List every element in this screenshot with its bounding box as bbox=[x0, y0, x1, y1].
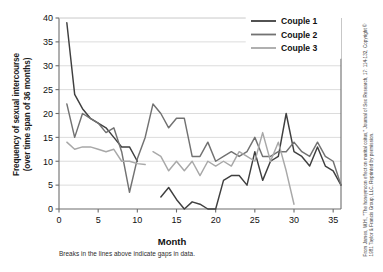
y-axis-title-line2: (over time span of 36 months) bbox=[22, 15, 33, 215]
y-tick-label-20: 20 bbox=[43, 109, 53, 119]
x-tick-label-35: 35 bbox=[328, 215, 338, 225]
legend-label-couple-2: Couple 2 bbox=[281, 30, 318, 40]
x-axis-title: Month bbox=[0, 236, 344, 247]
figure-credit-line1: From James, W.H., "The honeymoon effect … bbox=[363, 76, 368, 256]
y-tick-label-30: 30 bbox=[43, 61, 53, 71]
x-tick-label-25: 25 bbox=[250, 215, 260, 225]
legend-label-couple-3: Couple 3 bbox=[281, 43, 318, 53]
y-tick-label-10: 10 bbox=[43, 157, 53, 167]
x-tick-label-20: 20 bbox=[211, 215, 221, 225]
y-axis-title: Frequency of sexual intercourse (over ti… bbox=[12, 15, 33, 215]
x-tick-label-30: 30 bbox=[289, 215, 299, 225]
y-tick-label-40: 40 bbox=[43, 13, 53, 23]
line-chart: 051015202530354005101520253035Couple 1Co… bbox=[0, 0, 383, 272]
x-tick-label-0: 0 bbox=[56, 215, 61, 225]
figure-caption: Breaks in the lines above indicate gaps … bbox=[59, 250, 195, 257]
y-tick-label-25: 25 bbox=[43, 85, 53, 95]
y-tick-label-0: 0 bbox=[48, 204, 53, 214]
y-tick-label-15: 15 bbox=[43, 133, 53, 143]
y-tick-label-5: 5 bbox=[48, 180, 53, 190]
y-axis-title-line1: Frequency of sexual intercourse bbox=[12, 15, 23, 215]
x-tick-label-5: 5 bbox=[96, 215, 101, 225]
figure-credit: From James, W.H., "The honeymoon effect … bbox=[363, 16, 376, 256]
x-tick-label-10: 10 bbox=[132, 215, 142, 225]
figure-container: Frequency of sexual intercourse (over ti… bbox=[0, 0, 383, 272]
legend-label-couple-1: Couple 1 bbox=[281, 16, 318, 26]
x-tick-label-15: 15 bbox=[171, 215, 181, 225]
y-tick-label-35: 35 bbox=[43, 37, 53, 47]
